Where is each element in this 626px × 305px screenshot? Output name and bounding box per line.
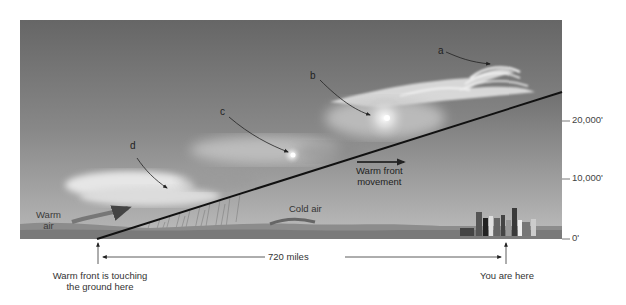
warm-air-label-line2: air xyxy=(36,220,61,231)
warm-front-diagram xyxy=(0,0,626,305)
you-are-here-label: You are here xyxy=(480,270,534,281)
label-c: c xyxy=(220,106,225,117)
altitude-label-20000: 20,000' xyxy=(572,114,603,125)
label-a: a xyxy=(438,45,444,56)
front-ground-label-line1: Warm front is touching xyxy=(40,270,160,281)
warm-air-label-line1: Warm xyxy=(36,209,61,220)
front-ground-label: Warm front is touching the ground here xyxy=(40,270,160,292)
label-b: b xyxy=(310,70,316,81)
cold-air-label: Cold air xyxy=(289,203,322,214)
movement-label: Warm front movement xyxy=(356,165,403,187)
front-ground-label-line2: the ground here xyxy=(40,281,160,292)
movement-label-line1: Warm front xyxy=(356,165,403,176)
movement-label-line2: movement xyxy=(356,176,403,187)
warm-air-label: Warm air xyxy=(36,209,61,231)
altitude-ticks xyxy=(562,121,570,239)
label-d: d xyxy=(130,140,136,151)
distance-label: 720 miles xyxy=(268,251,309,262)
altitude-label-10000: 10,000' xyxy=(572,172,603,183)
altitude-label-0: 0' xyxy=(572,232,579,243)
